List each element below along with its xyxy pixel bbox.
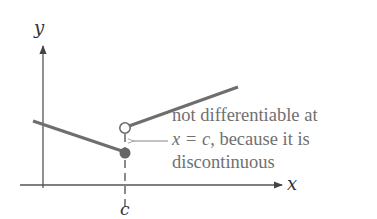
x-axis-label: x	[287, 173, 297, 194]
filled-point	[120, 148, 131, 159]
left-segment	[33, 121, 125, 152]
annotation-line-2: x = c, because it is	[171, 129, 310, 149]
annotation-line-3: discontinuous	[172, 152, 275, 172]
y-axis-label: y	[33, 17, 45, 38]
discontinuity-diagram: y x c not differentiable at x = c, becau…	[0, 0, 377, 219]
c-tick-label: c	[120, 199, 130, 219]
annotation-line-1: not differentiable at	[172, 105, 318, 125]
annotation-math: x = c	[171, 129, 211, 149]
annotation-line-2-rest: , because it is	[210, 129, 310, 149]
open-point	[120, 123, 130, 133]
